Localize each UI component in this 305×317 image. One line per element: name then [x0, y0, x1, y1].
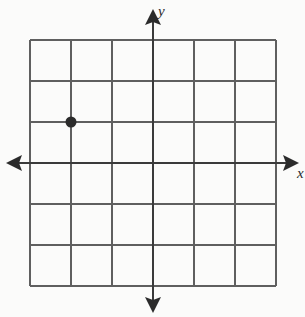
plotted-point	[66, 117, 77, 128]
y-axis	[145, 9, 161, 313]
grid-canvas	[0, 0, 305, 317]
data-points	[66, 117, 77, 128]
y-axis-label: y	[158, 4, 165, 19]
x-axis-label: x	[297, 166, 304, 181]
coordinate-grid-figure: y x	[0, 0, 305, 317]
